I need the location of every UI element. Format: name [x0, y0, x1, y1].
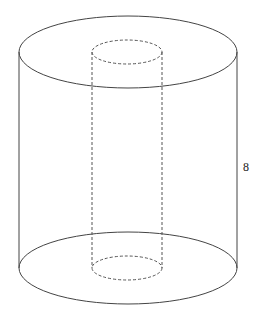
inner-bottom-ellipse: [92, 256, 162, 280]
outer-bottom-ellipse: [19, 232, 237, 304]
outer-top-ellipse: [19, 16, 237, 88]
cylinder-drawing: [0, 0, 262, 316]
height-label: 8: [243, 160, 249, 175]
inner-top-ellipse: [92, 40, 162, 64]
hollow-cylinder-diagram: 8: [0, 0, 262, 316]
